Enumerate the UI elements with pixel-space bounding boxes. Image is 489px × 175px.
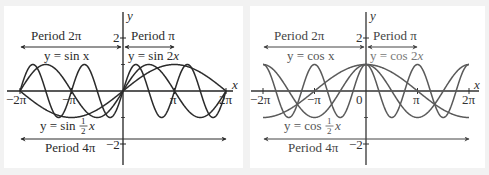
period-4pi-label: Period 4π <box>45 140 96 155</box>
x-tick-label-pi: π <box>413 92 420 107</box>
y-axis-label: y <box>125 8 133 23</box>
y-tick-label-2: 2 <box>113 30 120 45</box>
svg-text:y = cos: y = cos <box>284 118 322 133</box>
label-sin-x: y = sin x <box>44 48 90 63</box>
y-tick-label-neg2: −2 <box>106 137 120 152</box>
period-pi-label: Period π <box>373 28 417 43</box>
x-axis-label: x <box>231 77 238 92</box>
x-tick-label-neg2pi: −2π <box>250 92 271 107</box>
x-tick-label-2pi: 2π <box>219 92 233 107</box>
x-tick-label-negpi: −π <box>307 92 321 107</box>
x-axis-label: x <box>473 77 480 92</box>
period-4pi-label: Period 4π <box>288 140 339 155</box>
svg-text:x: x <box>334 118 341 133</box>
x-tick-label-pi: π <box>170 92 177 107</box>
sine-chart: Period 2π Period π Period 4π y = sin x y… <box>6 8 238 165</box>
svg-text:x: x <box>88 118 95 133</box>
svg-text:2: 2 <box>327 126 332 136</box>
y-tick-label-neg2: −2 <box>349 137 363 152</box>
y-axis-label: y <box>368 8 376 23</box>
x-tick-label-2pi: 2π <box>462 92 476 107</box>
period-2pi-label: Period 2π <box>274 28 325 43</box>
x-tick-label-0: 0 <box>356 92 363 107</box>
graphs-svg: Period 2π Period π Period 4π y = sin x y… <box>0 0 489 175</box>
x-tick-label-negpi: −π <box>62 92 76 107</box>
svg-text:y = sin: y = sin <box>40 118 76 133</box>
label-cos-half-x: y = cos 1 2 x <box>284 116 341 136</box>
svg-text:1: 1 <box>81 116 86 126</box>
label-sin-2x: y = sin 2x <box>128 48 179 63</box>
period-2pi-label: Period 2π <box>31 28 82 43</box>
cosine-chart: Period 2π Period π Period 4π y = cos x y… <box>250 8 480 165</box>
period-pi-label: Period π <box>131 28 175 43</box>
label-cos-x: y = cos x <box>287 48 335 63</box>
x-tick-label-neg2pi: −2π <box>6 92 27 107</box>
label-cos-2x: y = cos 2x <box>370 48 423 63</box>
svg-text:1: 1 <box>327 116 332 126</box>
figure: Period 2π Period π Period 4π y = sin x y… <box>0 0 489 175</box>
svg-text:2: 2 <box>81 126 86 136</box>
label-sin-half-x: y = sin 1 2 x <box>40 116 95 136</box>
y-tick-label-2: 2 <box>356 30 363 45</box>
